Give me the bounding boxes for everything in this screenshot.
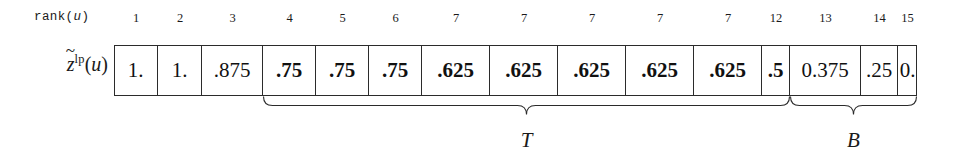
brace-label: T: [487, 128, 567, 153]
rank-header-cell: 15: [898, 8, 917, 28]
rank-header-cell: 12: [762, 8, 790, 28]
rank-header-cell: 6: [369, 8, 422, 28]
rank-header-cell: 3: [202, 8, 263, 28]
rank-header-cell: 7: [490, 8, 558, 28]
underbrace-group: TB: [0, 96, 954, 130]
rank-header-cell: 4: [263, 8, 316, 28]
value-cell: .625: [694, 46, 762, 95]
value-cell: .75: [316, 46, 369, 95]
rank-header-cell: 14: [861, 8, 898, 28]
rank-header-cell: 7: [626, 8, 694, 28]
underbrace: [264, 97, 790, 115]
rank-header-cell: 2: [158, 8, 202, 28]
rank-header-cell: 7: [558, 8, 626, 28]
value-cell: .75: [369, 46, 422, 95]
value-cell: .5: [762, 46, 790, 95]
brace-svg: [0, 96, 954, 130]
value-cell: .625: [626, 46, 694, 95]
value-cell: .625: [558, 46, 626, 95]
brace-label: B: [814, 128, 894, 153]
value-cell: .25: [861, 46, 898, 95]
u-argument: u: [91, 53, 101, 75]
value-cell: .625: [490, 46, 558, 95]
value-cell: 1.: [158, 46, 202, 95]
rank-header-cell: 13: [790, 8, 861, 28]
value-cell: .625: [422, 46, 490, 95]
value-cell: .75: [263, 46, 316, 95]
tilde-accent: ~: [66, 42, 75, 59]
rank-header-cell: 7: [422, 8, 490, 28]
value-cell: 0.: [898, 46, 917, 95]
lp-superscript: lp: [75, 52, 85, 66]
value-cell: 1.: [114, 46, 158, 95]
value-table: 1.1..875.75.75.75.625.625.625.625.625.50…: [114, 45, 917, 96]
underbrace: [791, 97, 917, 115]
close-paren: ): [101, 53, 108, 75]
z-variable: ~z: [67, 53, 75, 75]
rank-label-suffix: ): [81, 10, 89, 24]
rank-header-cell: 1: [114, 8, 158, 28]
value-cell: 0.375: [790, 46, 861, 95]
rank-row-label: rank(u): [34, 10, 110, 24]
rank-header-cell: 5: [316, 8, 369, 28]
value-cell: .875: [202, 46, 263, 95]
lp-rounding-table-figure: rank(u) ~zlp(u) 1234567777712131415 1.1.…: [0, 0, 954, 163]
rank-header-cell: 7: [694, 8, 762, 28]
value-row-label: ~zlp(u): [28, 52, 108, 76]
rank-label-prefix: rank(: [34, 10, 74, 24]
